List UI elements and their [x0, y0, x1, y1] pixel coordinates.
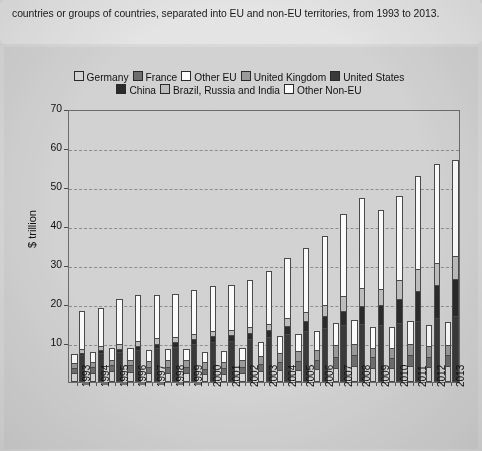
bar-segment-other-non-eu: [379, 211, 383, 290]
x-axis-tick-label: 2004: [287, 365, 298, 387]
year-group-2008: [349, 111, 368, 382]
bar-segment-united-kingdom: [371, 349, 375, 359]
bar-segment-other-eu: [352, 321, 356, 345]
bar-segment-china: [285, 327, 289, 335]
bar-segment-other-non-eu: [99, 309, 103, 347]
bar-segment-other-eu: [446, 323, 450, 345]
year-group-2006: [312, 111, 331, 382]
x-axis-tick-mark: [171, 383, 172, 386]
bar-segment-other-non-eu: [453, 161, 457, 257]
bar-segment-other-non-eu: [192, 291, 196, 336]
bar-segment-brazil-russia-and-india: [397, 281, 401, 300]
x-axis-tick-label: 2006: [324, 365, 335, 387]
year-group-2013: [442, 111, 461, 382]
bar-segment-brazil-russia-and-india: [379, 290, 383, 306]
bar-segment-other-non-eu: [173, 295, 177, 338]
bar-segment-united-kingdom: [427, 347, 431, 358]
x-axis-tick-label: 2002: [249, 365, 260, 387]
y-axis-tick-label: 50: [26, 181, 62, 192]
bar-segment-other-non-eu: [211, 287, 215, 332]
bar-1993-eu[interactable]: [71, 354, 77, 382]
bar-2008-non-eu[interactable]: [359, 198, 365, 382]
bar-segment-other-non-eu: [323, 237, 327, 306]
bar-segment-china: [341, 312, 345, 326]
year-group-1999: [181, 111, 200, 382]
intro-paragraph-block: countries or groups of countries, separa…: [0, 0, 482, 44]
year-group-2007: [330, 111, 349, 382]
bar-segment-other-eu: [278, 337, 282, 354]
x-axis-tick-mark: [283, 383, 284, 386]
bar-segment-other-eu: [334, 324, 338, 346]
x-axis-tick-mark: [339, 383, 340, 386]
x-axis-tick-label: 2007: [343, 365, 354, 387]
x-axis-tick-label: 1995: [119, 365, 130, 387]
bar-segment-other-eu: [427, 326, 431, 347]
scanned-page: countries or groups of countries, separa…: [0, 0, 482, 451]
x-axis-tick-mark: [189, 383, 190, 386]
x-axis-tick-label: 1999: [193, 365, 204, 387]
year-group-2012: [424, 111, 443, 382]
bar-segment-brazil-russia-and-india: [360, 289, 364, 306]
x-axis-tick-label: 2009: [380, 365, 391, 387]
bar-2012-non-eu[interactable]: [434, 164, 440, 382]
bar-2010-non-eu[interactable]: [396, 196, 402, 382]
bar-segment-other-non-eu: [155, 296, 159, 340]
x-axis-tick-label: 2003: [268, 365, 279, 387]
bar-2009-non-eu[interactable]: [378, 210, 384, 382]
bar-segment-united-kingdom: [315, 351, 319, 361]
year-group-2003: [256, 111, 275, 382]
bar-2004-non-eu[interactable]: [284, 258, 290, 382]
year-group-1994: [88, 111, 107, 382]
x-axis-tick-label: 1993: [81, 365, 92, 387]
x-axis-tick-label: 2011: [417, 365, 428, 387]
bar-2011-non-eu[interactable]: [415, 176, 421, 382]
bar-segment-china: [416, 292, 420, 322]
bar-segment-united-kingdom: [446, 346, 450, 357]
bar-segment-other-eu: [166, 350, 170, 361]
bar-segment-brazil-russia-and-india: [453, 257, 457, 280]
bar-segment-china: [267, 331, 271, 338]
bar-segment-brazil-russia-and-india: [267, 325, 271, 332]
bar-2007-non-eu[interactable]: [340, 214, 346, 382]
y-axis-tick-label: 60: [26, 142, 62, 153]
bar-segment-united-kingdom: [334, 346, 338, 358]
bar-segment-brazil-russia-and-india: [435, 264, 439, 286]
bar-segment-other-eu: [408, 322, 412, 345]
x-axis-tick-label: 2013: [455, 365, 466, 387]
x-axis-tick-label: 2012: [436, 365, 447, 387]
bar-segment-other-non-eu: [360, 199, 364, 290]
bar-segment-china: [323, 317, 327, 328]
bar-segment-other-eu: [203, 353, 207, 363]
bar-segment-other-eu: [147, 351, 151, 362]
intro-paragraph-text: countries or groups of countries, separa…: [12, 6, 470, 21]
x-axis-tick-mark: [413, 383, 414, 386]
bar-segment-other-non-eu: [80, 312, 84, 349]
bar-2013-non-eu[interactable]: [452, 160, 458, 382]
bar-2006-non-eu[interactable]: [322, 236, 328, 382]
bar-segment-united-kingdom: [390, 349, 394, 359]
x-axis-tick-mark: [115, 383, 116, 386]
bar-segment-brazil-russia-and-india: [416, 270, 420, 292]
bar-segment-china: [397, 300, 401, 324]
x-axis-tick-label: 1997: [156, 365, 167, 387]
bar-segment-other-non-eu: [229, 286, 233, 331]
bar-segment-brazil-russia-and-india: [285, 319, 289, 327]
bar-segment-other-non-eu: [136, 296, 140, 341]
bar-segment-germany: [72, 374, 76, 381]
bar-segment-other-eu: [390, 328, 394, 349]
year-group-1993: [69, 111, 88, 382]
y-axis-tick-label: 20: [26, 298, 62, 309]
bar-segment-other-non-eu: [416, 177, 420, 270]
year-group-2000: [200, 111, 219, 382]
x-axis-tick-mark: [264, 383, 265, 386]
bar-segment-other-non-eu: [341, 215, 345, 298]
year-group-2002: [237, 111, 256, 382]
x-axis-tick-label: 1994: [100, 365, 111, 387]
chart-card: GermanyFranceOther EUUnited KingdomUnite…: [4, 47, 478, 449]
x-axis-tick-mark: [376, 383, 377, 386]
bar-segment-china: [360, 307, 364, 325]
bar-2005-non-eu[interactable]: [303, 248, 309, 382]
bar-segment-other-non-eu: [285, 259, 289, 319]
x-axis-tick-mark: [301, 383, 302, 386]
bar-segment-other-non-eu: [304, 249, 308, 313]
